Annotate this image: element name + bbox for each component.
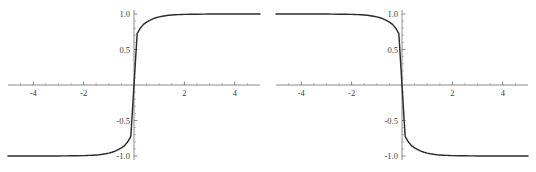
x-tick-label: -4 bbox=[30, 88, 38, 98]
x-tick-label: 4 bbox=[233, 88, 238, 98]
y-tick-label: -1.0 bbox=[385, 151, 398, 161]
plot-panel-right: -4-2241.00.5-0.5-1.0 bbox=[268, 0, 536, 172]
figure-container: -4-2241.00.5-0.5-1.0 -4-2241.00.5-0.5-1.… bbox=[0, 0, 536, 172]
x-tick-label: 2 bbox=[450, 88, 454, 98]
y-tick-label: 1.0 bbox=[119, 9, 130, 19]
x-tick-label: 2 bbox=[182, 88, 186, 98]
x-tick-label: -4 bbox=[298, 88, 306, 98]
y-tick-label: -0.5 bbox=[117, 116, 130, 126]
y-tick-label: 0.5 bbox=[119, 45, 130, 55]
x-tick-label: -2 bbox=[348, 88, 355, 98]
plot-panel-left: -4-2241.00.5-0.5-1.0 bbox=[0, 0, 268, 172]
x-tick-label: 4 bbox=[501, 88, 506, 98]
y-tick-label: 0.5 bbox=[387, 45, 398, 55]
y-tick-label: -1.0 bbox=[117, 151, 130, 161]
right-plot-svg: -4-2241.00.5-0.5-1.0 bbox=[268, 0, 536, 172]
x-tick-label: -2 bbox=[80, 88, 87, 98]
y-tick-label: -0.5 bbox=[385, 116, 398, 126]
left-plot-svg: -4-2241.00.5-0.5-1.0 bbox=[0, 0, 268, 172]
y-tick-label: 1.0 bbox=[387, 9, 398, 19]
